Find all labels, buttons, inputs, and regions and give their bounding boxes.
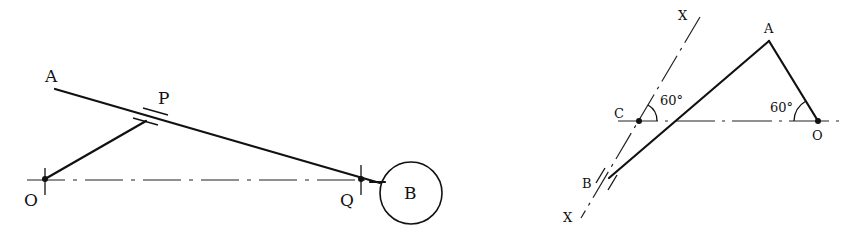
label-angle-c: 60° — [660, 93, 683, 108]
slider-p-upper — [143, 108, 168, 115]
label-b-right: B — [582, 176, 592, 191]
angle-arc-c — [648, 105, 657, 121]
left-figure: A P O Q B — [24, 66, 442, 224]
label-p: P — [158, 88, 169, 108]
label-a-right: A — [763, 21, 774, 36]
pivot-o — [42, 176, 48, 182]
label-q: Q — [340, 190, 354, 210]
label-a-left: A — [44, 66, 58, 86]
pivot-q — [358, 176, 364, 182]
label-x-bottom: X — [563, 210, 573, 225]
mechanism-diagrams: A P O Q B X X A C O B 60° 60° — [0, 0, 867, 237]
label-o-left: O — [24, 190, 38, 210]
label-angle-o: 60° — [770, 100, 793, 115]
label-x-top: X — [678, 8, 688, 23]
label-o-right: O — [812, 128, 823, 143]
pivot-o-right — [815, 118, 821, 124]
label-b-left: B — [404, 183, 417, 203]
rod-aq — [55, 89, 380, 183]
link-op — [45, 121, 146, 179]
label-c: C — [614, 106, 624, 121]
slider-p-lower — [133, 118, 158, 125]
pivot-c — [636, 118, 642, 124]
line-xx — [581, 17, 700, 218]
link-ab — [609, 41, 769, 178]
angle-arc-o — [794, 101, 806, 121]
right-figure: X X A C O B 60° 60° — [563, 8, 845, 225]
